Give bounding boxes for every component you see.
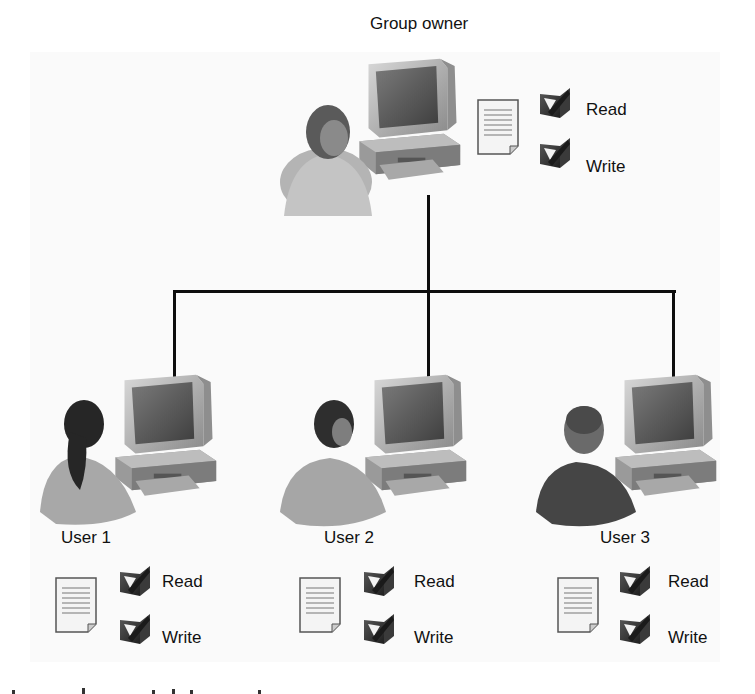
permission-read-label: Read bbox=[414, 572, 455, 592]
person-at-computer-icon bbox=[532, 372, 732, 552]
checkbox-checked-icon[interactable] bbox=[362, 612, 396, 646]
user-label: User 2 bbox=[324, 528, 374, 548]
document-icon bbox=[298, 576, 342, 634]
cropped-caption-fragment bbox=[0, 684, 755, 694]
permission-read-label: Read bbox=[668, 572, 709, 592]
user-label: User 1 bbox=[61, 528, 111, 548]
checkbox-checked-icon[interactable] bbox=[118, 612, 152, 646]
permission-write-label: Write bbox=[586, 157, 625, 177]
checkbox-checked-icon[interactable] bbox=[618, 612, 652, 646]
permission-read-label: Read bbox=[586, 100, 627, 120]
person-at-computer-icon bbox=[36, 372, 236, 552]
owner-label: Group owner bbox=[370, 14, 468, 34]
user3-connector-line bbox=[672, 290, 675, 380]
document-icon bbox=[54, 576, 98, 634]
permission-write-label: Write bbox=[668, 628, 707, 648]
document-icon bbox=[476, 98, 520, 156]
horizontal-bus-line bbox=[173, 290, 676, 293]
permission-write-label: Write bbox=[162, 628, 201, 648]
person-at-computer-icon bbox=[280, 56, 480, 236]
person-at-computer-icon bbox=[276, 372, 476, 552]
permission-read-label: Read bbox=[162, 572, 203, 592]
checkbox-checked-icon[interactable] bbox=[538, 136, 572, 170]
user1-connector-line bbox=[173, 290, 176, 380]
checkbox-checked-icon[interactable] bbox=[538, 86, 572, 120]
document-icon bbox=[556, 576, 600, 634]
permission-write-label: Write bbox=[414, 628, 453, 648]
user-label: User 3 bbox=[600, 528, 650, 548]
checkbox-checked-icon[interactable] bbox=[118, 564, 152, 598]
user2-connector-line bbox=[427, 290, 430, 380]
checkbox-checked-icon[interactable] bbox=[618, 564, 652, 598]
checkbox-checked-icon[interactable] bbox=[362, 564, 396, 598]
